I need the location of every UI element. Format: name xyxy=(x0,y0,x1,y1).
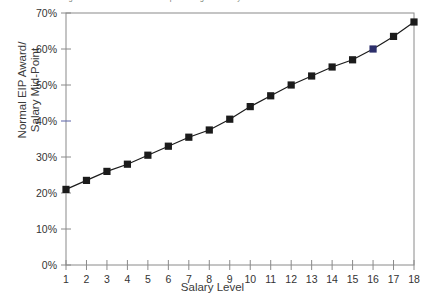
data-point-marker xyxy=(124,161,131,168)
data-point-marker xyxy=(369,45,376,52)
data-point-marker xyxy=(390,33,397,40)
data-point-marker xyxy=(329,63,336,70)
plot-area: 0%10%20%30%40%50%60%70% 1234567891011121… xyxy=(0,0,425,300)
x-tick-label: 9 xyxy=(227,273,233,285)
data-point-marker xyxy=(247,103,254,110)
data-point-marker xyxy=(206,126,213,133)
chart-container: Figure: Normal EIP Award as a percentage… xyxy=(0,0,425,300)
x-tick-label: 5 xyxy=(145,273,151,285)
x-tick-label: 3 xyxy=(104,273,110,285)
x-tick-label: 18 xyxy=(408,273,420,285)
x-tick-label: 10 xyxy=(244,273,256,285)
data-point-marker xyxy=(267,92,274,99)
data-point-marker xyxy=(349,56,356,63)
data-point-marker xyxy=(185,134,192,141)
x-tick-label: 4 xyxy=(124,273,130,285)
y-tick-label: 40% xyxy=(36,115,57,127)
x-tick-label: 7 xyxy=(186,273,192,285)
x-tick-label: 1 xyxy=(63,273,69,285)
data-point-marker xyxy=(144,152,151,159)
data-point-marker xyxy=(410,18,417,25)
y-tick-label: 30% xyxy=(36,151,57,163)
x-tick-label: 8 xyxy=(206,273,212,285)
y-tick-label: 0% xyxy=(42,259,57,271)
data-point-marker xyxy=(308,72,315,79)
y-tick-label: 60% xyxy=(36,43,57,55)
data-point-marker xyxy=(83,177,90,184)
y-tick-label: 20% xyxy=(36,187,57,199)
x-tick-label: 13 xyxy=(306,273,318,285)
x-tick-label: 6 xyxy=(165,273,171,285)
data-point-marker xyxy=(165,143,172,150)
plot-frame xyxy=(66,13,414,265)
x-tick-label: 17 xyxy=(388,273,400,285)
data-point-marker xyxy=(62,186,69,193)
data-point-marker xyxy=(226,116,233,123)
x-tick-label: 12 xyxy=(285,273,297,285)
x-tick-label: 14 xyxy=(326,273,338,285)
data-point-marker xyxy=(288,81,295,88)
y-tick-label: 50% xyxy=(36,79,57,91)
x-tick-label: 15 xyxy=(347,273,359,285)
y-tick-label: 70% xyxy=(36,7,57,19)
x-tick-label: 11 xyxy=(265,273,276,285)
x-tick-label: 16 xyxy=(367,273,379,285)
y-tick-label: 10% xyxy=(36,223,57,235)
data-point-marker xyxy=(103,168,110,175)
x-tick-label: 2 xyxy=(84,273,90,285)
